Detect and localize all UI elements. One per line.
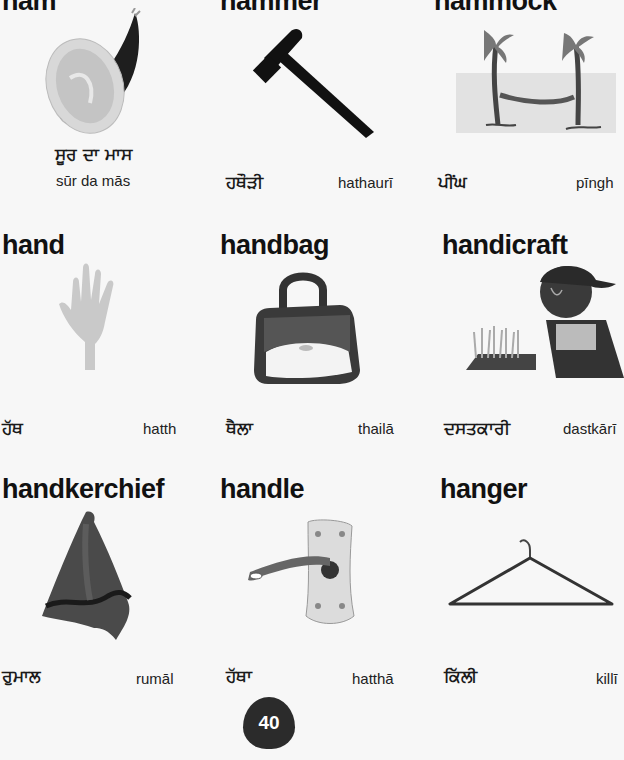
entry-translit: pīngh <box>576 174 614 191</box>
entry-native: ਦਸਤਕਾਰੀ <box>444 418 510 438</box>
entry-word: handle <box>220 474 304 505</box>
entry-word: handbag <box>220 230 329 261</box>
entry-handkerchief: handkerchief ਰੁਮਾਲ rumāl <box>0 470 208 690</box>
entry-hammock: hammock ਪੀਂਘ pīngh <box>416 0 624 200</box>
entry-word: hammock <box>434 0 557 17</box>
entry-native: ਹੱਥ <box>2 418 23 438</box>
entry-native: ਪੀਂਘ <box>438 172 467 192</box>
entry-native: ਸੂਰ ਦਾ ਮਾਸ <box>55 144 132 164</box>
handbag-icon <box>248 260 368 385</box>
entry-hammer: hammer ਹਥੌੜੀ hathaurī <box>208 0 416 200</box>
hand-icon <box>55 262 130 372</box>
entry-native: ਕਿੱਲੀ <box>444 666 477 686</box>
entry-translit: rumāl <box>136 670 174 687</box>
entry-word: hanger <box>440 474 527 505</box>
entry-translit: hatth <box>143 420 176 437</box>
handicraft-icon <box>456 260 624 378</box>
entry-handle: handle ਹੱਥਾ hatthā <box>208 470 416 690</box>
entry-translit: killī <box>596 670 618 687</box>
entry-native: ਹੱਥਾ <box>226 666 252 686</box>
entry-translit: dastkārī <box>563 420 616 437</box>
hammer-icon <box>246 20 386 140</box>
hammock-icon <box>456 25 624 137</box>
handkerchief-icon <box>38 510 148 640</box>
entry-native: ਰੁਮਾਲ <box>2 666 40 686</box>
ham-icon <box>40 8 150 138</box>
entry-hand: hand ਹੱਥ hatth <box>0 220 208 440</box>
entry-word: handicraft <box>442 230 568 261</box>
entry-word: hand <box>2 230 65 261</box>
hanger-icon <box>446 536 616 616</box>
page-number-badge: 40 <box>243 697 295 749</box>
entry-native: ਥੈਲਾ <box>226 418 253 438</box>
entry-ham: ham ਸੂਰ ਦਾ ਮਾਸ sūr da mās <box>0 0 208 200</box>
entry-translit: thailā <box>358 420 394 437</box>
entry-translit: hatthā <box>352 670 394 687</box>
entry-translit: hathaurī <box>338 174 393 191</box>
entry-handbag: handbag ਥੈਲਾ thailā <box>208 220 416 440</box>
entry-hanger: hanger ਕਿੱਲੀ killī <box>416 470 624 690</box>
entry-translit: sūr da mās <box>56 172 130 189</box>
entry-word: handkerchief <box>2 474 164 505</box>
entry-word: hammer <box>220 0 322 17</box>
handle-icon <box>246 516 356 626</box>
entry-native: ਹਥੌੜੀ <box>226 172 263 192</box>
entry-handicraft: handicraft ਦਸਤਕਾਰੀ dastkārī <box>416 220 624 440</box>
